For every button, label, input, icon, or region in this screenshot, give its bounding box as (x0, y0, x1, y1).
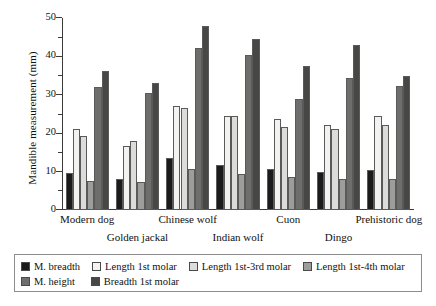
bar (145, 93, 152, 210)
bar-group (163, 18, 213, 210)
bar (252, 39, 259, 210)
bar (188, 169, 195, 210)
legend-label: M. height (34, 276, 75, 287)
bar (331, 129, 338, 210)
legend-item: Length 1st-3rd molar (189, 261, 291, 272)
y-tick-label: 20 (16, 127, 56, 137)
legend-item: M. breadth (21, 261, 80, 272)
bar (102, 71, 109, 210)
bar (382, 125, 389, 210)
bar (245, 55, 252, 210)
bar (238, 174, 245, 210)
chart-legend: M. breadthLength 1st molarLength 1st-3rd… (14, 254, 422, 292)
bar (374, 116, 381, 210)
legend-swatch (21, 277, 30, 286)
bar (66, 173, 73, 210)
bar (295, 99, 302, 210)
bar (353, 45, 360, 210)
bar (396, 86, 403, 210)
bar (224, 116, 231, 210)
x-tick-label: Prehistoric dog (329, 213, 436, 225)
y-tick-label: 10 (16, 166, 56, 176)
bar (202, 26, 209, 210)
y-axis-title: Mandible measurement (mm) (26, 18, 38, 218)
legend-swatch (92, 262, 101, 271)
bar (324, 125, 331, 210)
bar (389, 179, 396, 210)
bar (130, 141, 137, 210)
legend-label: Length 1st-3rd molar (202, 261, 291, 272)
legend-row-2: M. heightBreadth 1st molar (21, 274, 415, 289)
bar (367, 170, 374, 210)
bar (281, 127, 288, 210)
bar-group (263, 18, 313, 210)
legend-row-1: M. breadthLength 1st molarLength 1st-3rd… (21, 259, 415, 274)
bar-group (62, 18, 112, 210)
legend-swatch (91, 277, 100, 286)
bar (116, 179, 123, 210)
bar (80, 136, 87, 210)
legend-label: Breadth 1st molar (104, 276, 179, 287)
y-tick-label: 40 (16, 50, 56, 60)
bar (94, 87, 101, 210)
bar (267, 169, 274, 210)
bar (403, 76, 410, 210)
legend-item: M. height (21, 276, 75, 287)
bar (274, 119, 281, 210)
legend-label: Length 1st molar (105, 261, 177, 272)
bar (303, 66, 310, 210)
bar-group (364, 18, 414, 210)
legend-item: Length 1st molar (92, 261, 177, 272)
legend-swatch (189, 262, 198, 271)
bar (181, 108, 188, 210)
legend-label: Length 1st-4th molar (316, 261, 405, 272)
bar (123, 146, 130, 210)
bar (317, 172, 324, 210)
legend-label: M. breadth (34, 261, 80, 272)
bar (339, 179, 346, 210)
bar (166, 158, 173, 210)
y-tick-label: 50 (16, 12, 56, 22)
bar-chart-figure: Mandible measurement (mm) 01020304050 Mo… (0, 0, 436, 306)
legend-swatch (303, 262, 312, 271)
legend-swatch (21, 262, 30, 271)
bar (346, 78, 353, 210)
legend-item: Length 1st-4th molar (303, 261, 405, 272)
bar (288, 177, 295, 210)
bar (231, 116, 238, 210)
x-tick-label: Dingo (279, 231, 399, 243)
bar (87, 181, 94, 210)
legend-item: Breadth 1st molar (91, 276, 179, 287)
bar (152, 83, 159, 210)
bar (137, 182, 144, 210)
bar (195, 48, 202, 210)
bar (173, 106, 180, 210)
bar-group (313, 18, 363, 210)
bar (216, 165, 223, 210)
bar (73, 129, 80, 210)
bar-group (112, 18, 162, 210)
y-tick-label: 30 (16, 89, 56, 99)
bar-group (213, 18, 263, 210)
